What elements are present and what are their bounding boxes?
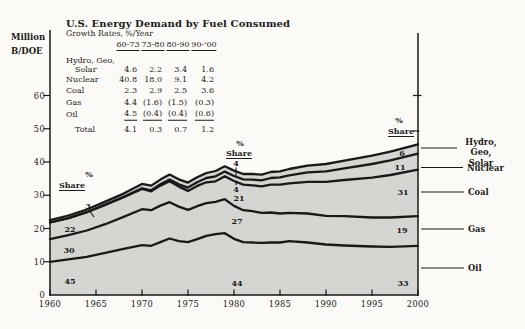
table-cell-value: (0.3) — [195, 99, 214, 107]
table-cell-value: (0.4) — [168, 110, 187, 121]
table-cell-value: 2.2 — [149, 66, 162, 74]
table-cell-value: 18.0 — [144, 76, 162, 84]
legend-label-line: Hydro, — [459, 137, 503, 148]
x-tick-label: 1975 — [177, 300, 199, 308]
table-row-label: Hydro, Geo, — [66, 57, 115, 65]
table-cell-value: 3.6 — [201, 87, 214, 95]
table-cell-value: (0.4) — [143, 110, 162, 121]
table-cell-value: 4.6 — [124, 66, 137, 74]
table-cell-value: (1.6) — [143, 99, 162, 107]
legend-label-line: Coal — [468, 187, 489, 198]
table-cell-value: 0.7 — [174, 126, 187, 134]
share-value: 27 — [231, 217, 242, 225]
table-cell-value: 2.9 — [149, 87, 162, 95]
share-percent-sign: % — [85, 170, 93, 178]
y-tick-label: 50 — [34, 125, 45, 133]
table-row-label: Nuclear — [66, 76, 99, 84]
table-col-header: 90-'00 — [191, 41, 216, 51]
table-col-header: 60-73 — [116, 41, 139, 51]
share-header: Share — [388, 127, 414, 137]
table-row-label: Coal — [66, 87, 84, 95]
y-tick-label: 10 — [34, 258, 45, 266]
table-col-header: 73-80 — [141, 41, 164, 51]
y-tick-label: 40 — [34, 158, 45, 166]
y-axis-unit-line2: B/DOE — [11, 47, 43, 56]
legend-label-line: Oil — [468, 263, 482, 274]
share-value: 45 — [64, 277, 75, 285]
table-row-label: Gas — [66, 99, 81, 107]
x-tick-label: 1990 — [315, 300, 337, 308]
table-cell-value: 1.2 — [201, 126, 214, 134]
x-tick-label: 1995 — [361, 300, 383, 308]
table-col-header: 80-90 — [166, 41, 189, 51]
table-cell-value: 2.5 — [174, 87, 187, 95]
table-cell-value: 9.1 — [174, 76, 187, 84]
share-value: 6 — [399, 149, 405, 157]
share-value: 21 — [233, 194, 244, 202]
table-cell-value: 4.5 — [124, 110, 137, 121]
table-cell-value: 1.6 — [201, 66, 214, 74]
figure-energy-demand: U.S. Energy Demand by Fuel Consumed Grow… — [0, 0, 525, 329]
share-value: 44 — [231, 279, 242, 287]
y-tick-label: 20 — [34, 224, 45, 232]
x-tick-label: 1985 — [269, 300, 291, 308]
table-cell-value: 0.3 — [149, 126, 162, 134]
x-tick-label: 2000 — [407, 300, 429, 308]
legend-label-line: Nuclear — [467, 162, 504, 173]
share-value: 19 — [396, 226, 407, 234]
share-header: Share — [59, 181, 85, 191]
table-row-label: Total — [75, 126, 95, 134]
table-cell-value: 2.3 — [124, 87, 137, 95]
table-cell-value: 4.2 — [201, 76, 214, 84]
chart-subtitle: Growth Rates, %/Year — [66, 30, 153, 38]
legend-label-line: Gas — [468, 224, 485, 235]
table-cell-value: (0.6) — [195, 110, 214, 121]
share-value: 33 — [397, 279, 408, 287]
legend-item-gas: Gas — [468, 224, 485, 235]
table-cell-value: 40.8 — [119, 76, 137, 84]
page-title: U.S. Energy Demand by Fuel Consumed — [66, 19, 290, 29]
table-row-label-line2: Solar — [75, 66, 96, 74]
share-value: 3 — [85, 202, 91, 210]
table-cell-value: 3.4 — [174, 66, 187, 74]
legend-item-nuclear: Nuclear — [467, 162, 504, 173]
x-tick-label: 1980 — [223, 300, 245, 308]
share-value: 4 — [233, 159, 239, 167]
legend-item-coal: Coal — [468, 187, 489, 198]
share-value: 11 — [394, 163, 405, 171]
stacked-area-chart — [0, 0, 525, 329]
share-percent-sign: % — [236, 139, 244, 147]
y-axis-unit-line1: Million — [11, 33, 45, 42]
y-tick-label: 30 — [34, 191, 45, 199]
share-value: 31 — [397, 188, 408, 196]
table-row-label: Oil — [66, 111, 78, 119]
table-cell-value: (1.5) — [168, 99, 187, 107]
table-cell-value: 4.4 — [124, 99, 137, 107]
x-tick-label: 1965 — [85, 300, 107, 308]
share-value: 22 — [64, 225, 75, 233]
share-value: 30 — [63, 246, 74, 254]
x-tick-label: 1960 — [39, 300, 61, 308]
y-tick-label: 60 — [34, 91, 45, 99]
share-percent-sign: % — [395, 116, 403, 124]
table-cell-value: 4.1 — [124, 126, 137, 134]
legend-item-oil: Oil — [468, 263, 482, 274]
x-tick-label: 1970 — [131, 300, 153, 308]
